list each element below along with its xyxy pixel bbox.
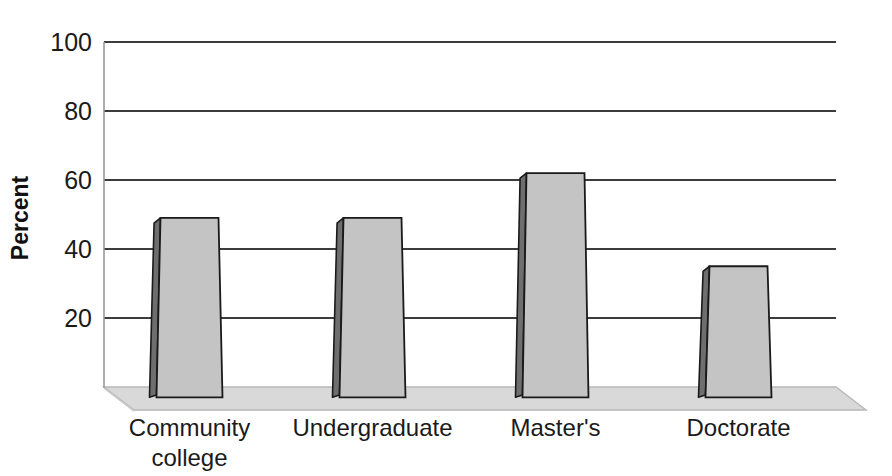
category-label: Master's [511,414,601,441]
y-tick-label: 100 [50,28,92,56]
bar [149,218,222,397]
y-tick-label: 40 [64,235,92,263]
bar [698,266,771,397]
y-tick-label: 20 [64,304,92,332]
bar-front-face [157,218,223,397]
category-label: Community [129,414,250,441]
category-label: college [151,444,227,471]
bar [332,218,405,397]
bar-front-face [706,266,772,397]
y-tick-label: 60 [64,166,92,194]
bar [515,173,588,397]
bar-chart-figure: 20406080100 Percent CommunitycollegeUnde… [0,0,892,476]
category-label: Doctorate [686,414,790,441]
y-tick-label: 80 [64,97,92,125]
bar-front-face [340,218,406,397]
category-label: Undergraduate [292,414,452,441]
bar-front-face [523,173,589,397]
chart-canvas: 20406080100 Percent CommunitycollegeUnde… [0,0,892,476]
y-axis-title: Percent [7,175,33,260]
